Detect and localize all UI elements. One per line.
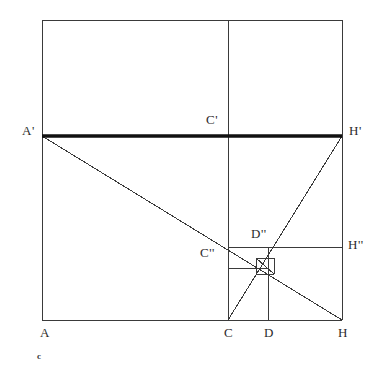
point-label-C-prime: C'	[206, 113, 218, 126]
segment-diagonal-A-prime-to-H	[42, 136, 342, 320]
point-label-H-prime: H'	[349, 124, 362, 137]
thin-line-group	[42, 20, 342, 320]
point-label-H: H	[338, 326, 348, 339]
point-label-C: C	[224, 326, 233, 339]
point-label-A-prime: A'	[22, 124, 35, 137]
point-label-A: A	[40, 326, 50, 339]
geometry-figure: A C D H A' C' H' C'' D'' H'' c	[0, 0, 387, 375]
figure-caption: c	[37, 352, 41, 361]
geometry-canvas	[0, 0, 387, 375]
point-label-C-double: C''	[200, 246, 215, 259]
segment-diagonal-H-prime-to-C	[228, 136, 342, 320]
point-label-D: D	[264, 326, 274, 339]
point-label-D-double: D''	[251, 227, 267, 240]
point-label-H-double: H''	[348, 238, 364, 251]
